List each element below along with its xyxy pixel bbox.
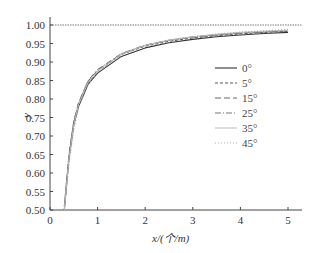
y-tick-label: 0.70: [26, 130, 46, 142]
plot-area: [64, 29, 288, 210]
y-tick-label: 0.60: [26, 167, 46, 179]
y-axis-label: y: [20, 113, 32, 119]
series-line: [64, 31, 288, 210]
y-tick-label: 0.65: [26, 149, 46, 161]
x-tick-label: 1: [95, 214, 101, 226]
y-tick-label: 0.50: [26, 204, 46, 216]
y-tick-label: 0.55: [26, 186, 46, 198]
legend-label: 0°: [242, 62, 252, 74]
axes: 0.500.550.600.650.700.750.800.850.900.95…: [26, 17, 302, 226]
line-chart: 0.500.550.600.650.700.750.800.850.900.95…: [0, 0, 315, 253]
x-tick-label: 5: [285, 214, 291, 226]
legend-label: 15°: [242, 92, 257, 104]
legend: 0°5°15°25°35°45°: [215, 62, 257, 149]
series-line: [64, 30, 288, 210]
legend-label: 35°: [242, 122, 257, 134]
legend-label: 25°: [242, 107, 257, 119]
y-tick-label: 0.90: [26, 56, 46, 68]
x-tick-label: 4: [238, 214, 244, 226]
x-axis-label: x/(个/m): [151, 232, 190, 245]
y-tick-label: 0.85: [26, 75, 46, 87]
y-tick-label: 1.00: [26, 19, 46, 31]
y-tick-label: 0.80: [26, 93, 46, 105]
y-tick-label: 0.95: [26, 38, 46, 50]
x-tick-label: 2: [142, 214, 148, 226]
x-tick-label: 3: [190, 214, 196, 226]
series-line: [64, 29, 288, 210]
legend-label: 45°: [242, 137, 257, 149]
legend-label: 5°: [242, 77, 252, 89]
x-tick-label: 0: [47, 214, 53, 226]
